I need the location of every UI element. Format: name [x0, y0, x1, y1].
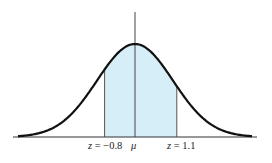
- right-z-value: 1.1: [182, 140, 195, 151]
- equals: =: [171, 140, 182, 151]
- equals: =: [92, 140, 103, 151]
- left-z-label: z = −0.8: [88, 140, 122, 151]
- left-z-value: −0.8: [103, 140, 122, 151]
- mean-label: μ: [131, 140, 136, 151]
- shaded-area: [105, 44, 177, 137]
- normal-curve-diagram: [0, 0, 272, 163]
- right-z-label: z = 1.1: [167, 140, 195, 151]
